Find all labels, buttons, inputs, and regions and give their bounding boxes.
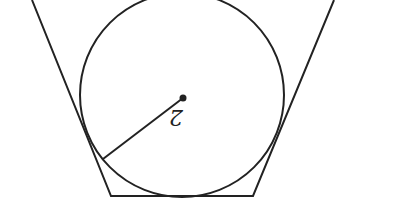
geometry-diagram	[0, 0, 418, 218]
radius-label: 2	[169, 106, 183, 128]
center-point	[180, 95, 187, 102]
